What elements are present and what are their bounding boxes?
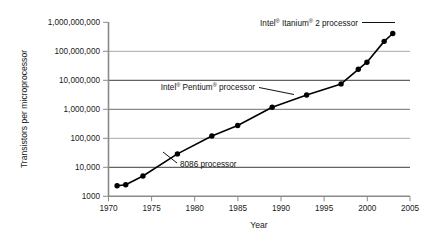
data-point bbox=[338, 81, 343, 86]
x-axis-title: Year bbox=[250, 220, 268, 230]
y-axis-title: Transistors per microprocessor bbox=[19, 50, 29, 168]
x-tick-label-2005: 2005 bbox=[401, 204, 420, 213]
data-point bbox=[140, 173, 145, 178]
y-tick-label-100000000: 100,000,000 bbox=[54, 47, 100, 56]
annotation-pentium-label: Intel® Pentium® processor bbox=[161, 82, 256, 92]
data-point bbox=[114, 183, 119, 188]
x-tick-label-1990: 1990 bbox=[272, 204, 291, 213]
data-point bbox=[390, 31, 395, 36]
x-tick-label-2000: 2000 bbox=[358, 204, 377, 213]
data-point bbox=[364, 60, 369, 65]
data-point bbox=[123, 182, 128, 187]
y-tick-label-1000: 1000 bbox=[82, 192, 101, 201]
y-tick-label-10000: 10,000 bbox=[75, 163, 100, 172]
data-point bbox=[381, 39, 386, 44]
x-tick-label-1985: 1985 bbox=[229, 204, 248, 213]
data-point bbox=[269, 105, 274, 110]
data-point bbox=[175, 151, 180, 156]
y-tick-label-100000: 100,000 bbox=[70, 134, 100, 143]
data-point bbox=[209, 133, 214, 138]
data-point bbox=[304, 92, 309, 97]
chart-page: 1,000,000,000 100,000,000 10,000,000 1,0… bbox=[0, 0, 427, 244]
y-tick-label-1000000: 1,000,000 bbox=[64, 105, 101, 114]
data-point bbox=[235, 123, 240, 128]
x-tick-label-1980: 1980 bbox=[186, 204, 205, 213]
data-point bbox=[356, 67, 361, 72]
annotation-8086-label: 8086 processor bbox=[180, 160, 237, 169]
x-tick-label-1995: 1995 bbox=[315, 204, 334, 213]
x-tick-label-1970: 1970 bbox=[99, 204, 118, 213]
y-tick-label-10000000: 10,000,000 bbox=[59, 76, 100, 85]
x-tick-label-1975: 1975 bbox=[142, 204, 161, 213]
y-tick-label-1000000000: 1,000,000,000 bbox=[48, 18, 101, 27]
transistor-count-line-chart: 1,000,000,000 100,000,000 10,000,000 1,0… bbox=[0, 0, 427, 244]
